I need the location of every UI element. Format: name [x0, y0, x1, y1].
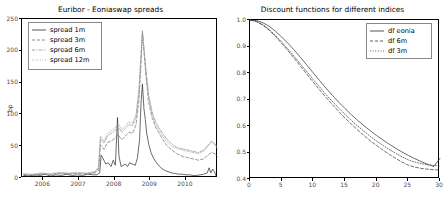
x-tick-mark	[439, 178, 440, 181]
legend-line-swatch-icon	[369, 47, 385, 55]
x-tick-mark	[249, 178, 250, 181]
y-tick-label: 200	[0, 46, 18, 53]
y-tick-label: 0.6	[225, 122, 246, 129]
legend-label: spread 12m	[50, 56, 89, 64]
y-tick-mark	[19, 113, 22, 114]
legend-line-swatch-icon	[369, 37, 385, 45]
chart-title-right: Discount functions for different indices	[222, 5, 443, 14]
legend-item-spread-12m[interactable]: spread 12m	[31, 55, 98, 65]
chart-title-left: Euribor - Eoniaswap spreads	[0, 5, 221, 14]
x-tick-mark	[78, 177, 79, 180]
legend-line-swatch-icon	[31, 26, 47, 34]
y-tick-label: 1.0	[225, 16, 246, 23]
legend-line-swatch-icon	[369, 27, 385, 35]
x-tick-label: 2007	[64, 180, 92, 187]
y-tick-label: 250	[0, 15, 18, 22]
legend-line-swatch-icon	[31, 36, 47, 44]
x-tick-label: 0	[235, 181, 263, 188]
y-tick-mark	[19, 18, 22, 19]
y-tick-mark	[19, 145, 22, 146]
legend-label: spread 3m	[50, 36, 85, 44]
x-tick-label: 10	[298, 181, 326, 188]
x-tick-label: 5	[267, 181, 295, 188]
x-tick-label: 2009	[135, 180, 163, 187]
y-tick-label: 100	[0, 110, 18, 117]
y-tick-mark	[247, 19, 250, 20]
y-tick-label: 0.9	[225, 42, 246, 49]
x-tick-mark	[344, 178, 345, 181]
legend-label: spread 1m	[50, 26, 85, 34]
x-tick-label: 2010	[171, 180, 199, 187]
y-tick-label: 0.5	[225, 148, 246, 155]
x-tick-label: 15	[330, 181, 358, 188]
x-tick-mark	[281, 178, 282, 181]
y-tick-label: 0.7	[225, 95, 246, 102]
x-tick-mark	[376, 178, 377, 181]
legend-label: df 6m	[388, 37, 407, 45]
y-tick-label: 150	[0, 78, 18, 85]
y-tick-mark	[247, 46, 250, 47]
legend-label: spread 6m	[50, 46, 85, 54]
y-tick-mark	[247, 125, 250, 126]
y-tick-mark	[19, 50, 22, 51]
y-tick-mark	[247, 72, 250, 73]
y-tick-label: 0.8	[225, 69, 246, 76]
x-tick-mark	[149, 177, 150, 180]
y-tick-mark	[19, 177, 22, 178]
legend-line-swatch-icon	[31, 46, 47, 54]
legend-left[interactable]: spread 1mspread 3mspread 6mspread 12m	[28, 22, 102, 70]
legend-item-df-6m[interactable]: df 6m	[369, 36, 428, 46]
x-tick-label: 2006	[28, 180, 56, 187]
x-tick-label: 20	[362, 181, 390, 188]
x-tick-label: 30	[425, 181, 448, 188]
y-tick-label: 50	[0, 142, 18, 149]
legend-line-swatch-icon	[31, 56, 47, 64]
x-tick-mark	[407, 178, 408, 181]
y-tick-label: 0	[0, 174, 18, 181]
x-tick-mark	[42, 177, 43, 180]
chart-panel-euribor-eoniaswap-spreads: Euribor - Eoniaswap spreads bp 050100150…	[0, 0, 221, 203]
legend-item-spread-1m[interactable]: spread 1m	[31, 25, 98, 35]
x-tick-mark	[185, 177, 186, 180]
legend-item-spread-6m[interactable]: spread 6m	[31, 45, 98, 55]
legend-label: df eonia	[388, 27, 415, 35]
legend-right[interactable]: df eoniadf 6mdf 3m	[366, 23, 432, 59]
legend-item-df-eonia[interactable]: df eonia	[369, 26, 428, 36]
legend-item-spread-3m[interactable]: spread 3m	[31, 35, 98, 45]
x-tick-label: 25	[393, 181, 421, 188]
y-tick-mark	[247, 99, 250, 100]
x-tick-mark	[312, 178, 313, 181]
legend-item-df-3m[interactable]: df 3m	[369, 46, 428, 56]
y-tick-mark	[247, 152, 250, 153]
x-tick-mark	[114, 177, 115, 180]
legend-label: df 3m	[388, 47, 407, 55]
y-tick-mark	[19, 82, 22, 83]
x-tick-label: 2008	[100, 180, 128, 187]
chart-panel-discount-functions: Discount functions for different indices…	[222, 0, 443, 203]
